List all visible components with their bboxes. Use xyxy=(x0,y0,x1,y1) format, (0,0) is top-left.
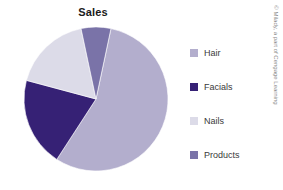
legend-item-products[interactable]: Products xyxy=(190,138,256,172)
legend-swatch-products-icon xyxy=(190,151,198,159)
legend-item-hair[interactable]: Hair xyxy=(190,36,256,70)
legend-label-facials: Facials xyxy=(204,83,233,92)
legend-item-facials[interactable]: Facials xyxy=(190,70,256,104)
legend-item-nails[interactable]: Nails xyxy=(190,104,256,138)
pie-chart-svg xyxy=(0,0,186,190)
pie-chart-figure: Sales Hair Facials Nails Products © Mila… xyxy=(0,0,283,190)
legend-label-hair: Hair xyxy=(204,49,221,58)
pie-chart-plot-area xyxy=(0,0,186,190)
legend-swatch-hair-icon xyxy=(190,49,198,57)
legend-label-nails: Nails xyxy=(204,117,224,126)
chart-legend: Hair Facials Nails Products xyxy=(190,36,256,172)
copyright-text: © Milady, a part of Cengage Learning xyxy=(273,5,279,104)
legend-swatch-nails-icon xyxy=(190,117,198,125)
legend-label-products: Products xyxy=(204,151,240,160)
copyright-notice: © Milady, a part of Cengage Learning xyxy=(270,52,282,172)
legend-swatch-facials-icon xyxy=(190,83,198,91)
pie-slice-group xyxy=(24,27,168,171)
